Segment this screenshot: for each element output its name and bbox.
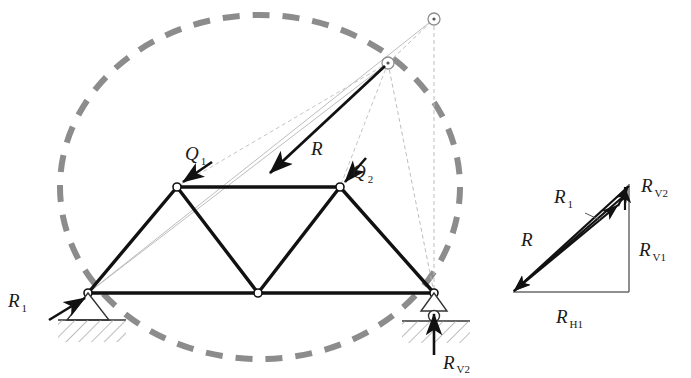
joint-bottom-mid (254, 289, 262, 297)
roller-support-hatching (402, 321, 470, 343)
construction-line-a-to-convergence (88, 63, 388, 293)
resultant-convergence-point-dot (386, 61, 389, 64)
polygon-label-rh1: RH1 (555, 306, 583, 330)
figure-canvas: Q1 Q2 R R1 RV2 R1 RV2 R RV1 RH1 (0, 0, 691, 378)
pin-support-hatching (58, 320, 126, 342)
joint-top-left (173, 183, 181, 191)
construction-line-convergence-to-c (388, 63, 434, 293)
roller-support-triangle (421, 293, 447, 311)
truss-members (88, 187, 434, 293)
member-diagonal-e-c (340, 187, 434, 293)
polygon-label-r1: R1 (553, 186, 573, 210)
construction-line-convergence-to-upper (388, 19, 434, 63)
joint-top-right (336, 183, 344, 191)
pin-support-left (58, 293, 126, 342)
force-polygon: R1 RV2 R RV1 RH1 (513, 175, 668, 330)
polygon-label-rv2: RV2 (640, 175, 668, 199)
member-diagonal-b-e (258, 187, 340, 293)
upper-intersection-point-dot (432, 17, 435, 20)
polygon-label-r: R (520, 229, 533, 250)
polygon-label-rv1: RV1 (638, 239, 666, 263)
label-q2: Q2 (352, 161, 373, 185)
force-arrows (49, 66, 434, 355)
arrow-load-q1 (183, 162, 212, 182)
label-q1: Q1 (185, 143, 206, 167)
arrow-resultant-r (270, 66, 385, 173)
member-diagonal-a-d (88, 187, 177, 293)
label-r: R (310, 138, 323, 159)
label-rv2: RV2 (442, 352, 470, 375)
member-diagonal-d-b (177, 187, 258, 293)
label-r1: R1 (7, 290, 27, 314)
truss-diagram: Q1 Q2 R R1 RV2 R1 RV2 R RV1 RH1 (0, 0, 691, 378)
